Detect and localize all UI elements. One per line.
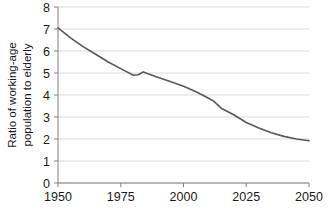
- x-tick-label-2000: 2000: [170, 190, 198, 204]
- y-tick-label-7: 7: [43, 23, 50, 37]
- chart-container: 012345678 19501975200020252050 Ratio of …: [0, 0, 328, 212]
- x-axis-tick-labels: 19501975200020252050: [44, 190, 323, 204]
- gridlines: [58, 7, 309, 183]
- y-tick-label-8: 8: [43, 1, 50, 15]
- y-tick-label-0: 0: [43, 177, 50, 191]
- x-tick-label-2025: 2025: [232, 190, 260, 204]
- x-axis-ticks: [58, 183, 309, 187]
- y-axis-title-line-2: population to elderly: [21, 43, 33, 146]
- y-axis-tick-labels: 012345678: [43, 1, 50, 191]
- y-tick-label-6: 6: [43, 45, 50, 59]
- y-tick-label-2: 2: [43, 133, 50, 147]
- x-tick-label-1950: 1950: [44, 190, 72, 204]
- y-axis-title: Ratio of working-age population to elder…: [6, 42, 33, 147]
- data-series-group: [58, 28, 309, 141]
- y-tick-label-4: 4: [43, 89, 50, 103]
- x-tick-label-2050: 2050: [295, 190, 323, 204]
- y-axis-title-line-1: Ratio of working-age: [6, 42, 18, 147]
- ratio-working-age-to-elderly-line-chart: 012345678 19501975200020252050 Ratio of …: [0, 0, 328, 212]
- y-tick-label-1: 1: [43, 155, 50, 169]
- series-line-ratio: [58, 28, 309, 141]
- y-tick-label-5: 5: [43, 67, 50, 81]
- y-axis-ticks: [54, 7, 58, 183]
- y-tick-label-3: 3: [43, 111, 50, 125]
- x-tick-label-1975: 1975: [107, 190, 135, 204]
